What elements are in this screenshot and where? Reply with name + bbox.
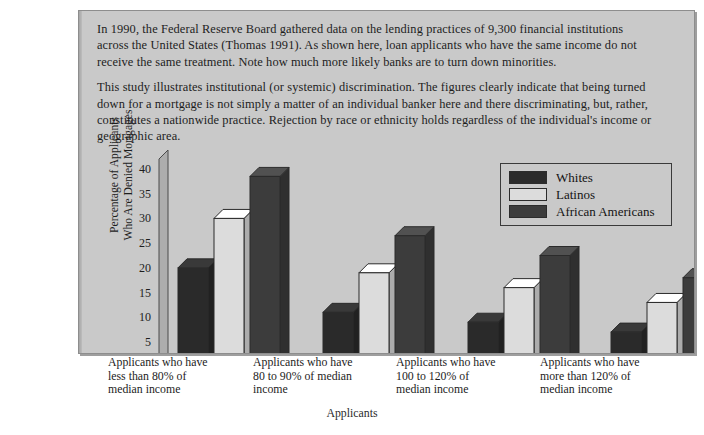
figure-panel: In 1990, the Federal Reserve Board gathe… <box>78 10 695 354</box>
x-axis-category-label-line: median income <box>108 383 240 397</box>
x-axis-category-label-line: Applicants who have <box>540 356 672 370</box>
bar-side-face <box>570 247 579 354</box>
x-axis-category-label-line: less than 80% of <box>108 370 240 384</box>
y-axis-tick-label: 35 <box>139 187 151 201</box>
x-axis-category-label-line: Applicants who have <box>108 356 240 370</box>
x-axis-category-label-line: Applicants who have <box>396 356 528 370</box>
bar-whites-group-4 <box>611 323 650 353</box>
y-axis-tick-label: 10 <box>139 310 151 324</box>
legend-item-latinos: Latinos <box>509 186 663 203</box>
legend-item-whites: Whites <box>509 169 663 186</box>
bar-front-face <box>611 332 641 353</box>
y-axis-tick-label: 40 <box>139 162 151 176</box>
bar-front-face <box>540 256 570 354</box>
x-axis-category-label-2: Applicants who have80 to 90% of medianin… <box>253 356 385 397</box>
bar-whites-group-3 <box>468 313 507 353</box>
y-axis-tick-label: 25 <box>139 236 151 250</box>
x-axis-category-label-line: 80 to 90% of median <box>253 370 385 384</box>
x-axis-category-labels: Applicants who haveless than 80% ofmedia… <box>78 356 693 406</box>
x-axis-category-label-line: 100 to 120% of <box>396 370 528 384</box>
bar-latinos-group-4 <box>647 293 686 353</box>
y-axis-tick-label: 5 <box>145 335 151 349</box>
bar-front-face <box>323 312 353 353</box>
x-axis-category-label-1: Applicants who haveless than 80% ofmedia… <box>108 356 240 397</box>
bar-african-americans-group-1 <box>250 167 289 353</box>
x-axis-category-label-line: income <box>253 383 385 397</box>
y-axis-tick-label: 15 <box>139 286 151 300</box>
legend-swatch-icon <box>509 188 547 201</box>
bar-front-face <box>250 176 280 353</box>
legend-label: Whites <box>556 171 593 185</box>
bar-whites-group-1 <box>178 259 217 353</box>
legend-label: Latinos <box>556 188 595 202</box>
bar-side-face <box>280 167 289 353</box>
bar-front-face <box>359 273 389 353</box>
x-axis-category-label-line: median income <box>540 383 672 397</box>
bar-latinos-group-1 <box>214 209 253 353</box>
bar-latinos-group-2 <box>359 264 398 353</box>
bar-front-face <box>504 288 534 353</box>
bar-front-face <box>214 218 244 353</box>
axis-left-wall <box>159 150 168 353</box>
bar-african-americans-group-2 <box>395 227 434 353</box>
x-axis-category-label-line: Applicants who have <box>253 356 385 370</box>
legend-swatch-icon <box>509 205 547 218</box>
legend-label: African Americans <box>556 205 655 219</box>
bar-african-americans-group-4 <box>683 269 694 353</box>
bar-top-face <box>683 269 694 278</box>
bar-front-face <box>178 268 208 353</box>
bar-front-face <box>683 278 694 353</box>
legend-swatch-icon <box>509 171 547 184</box>
chart-legend: WhitesLatinosAfrican Americans <box>500 163 672 226</box>
y-axis-tick-label: 30 <box>139 211 151 225</box>
x-axis-category-label-4: Applicants who havemore than 120% ofmedi… <box>540 356 672 397</box>
bar-latinos-group-3 <box>504 279 543 353</box>
x-axis-category-label-line: more than 120% of <box>540 370 672 384</box>
bar-side-face <box>425 227 434 353</box>
bar-front-face <box>395 236 425 353</box>
x-axis-category-label-3: Applicants who have100 to 120% ofmedian … <box>396 356 528 397</box>
bar-front-face <box>468 322 498 353</box>
bar-front-face <box>647 302 677 353</box>
x-axis-category-label-line: median income <box>396 383 528 397</box>
bar-whites-group-2 <box>323 303 362 353</box>
x-axis-title: Applicants <box>0 406 704 421</box>
legend-item-african-americans: African Americans <box>509 203 663 220</box>
y-axis-tick-label: 20 <box>139 261 151 275</box>
bar-african-americans-group-3 <box>540 247 579 354</box>
